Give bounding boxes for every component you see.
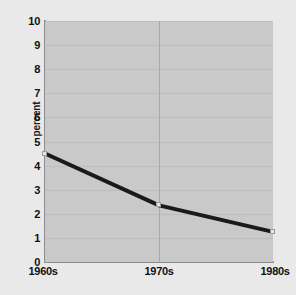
y-axis-tick-label: 5	[22, 137, 40, 148]
y-axis-tick-text: 6	[22, 112, 40, 123]
y-axis-tick-label: 3	[22, 185, 40, 196]
y-axis-tick-text: 9	[22, 40, 40, 51]
data-point-marker	[42, 151, 47, 156]
y-axis-tick-label: 10	[22, 16, 40, 27]
plot-area	[45, 21, 273, 262]
y-axis-tick-label: 2	[22, 209, 40, 220]
y-axis-tick-label: 8	[22, 64, 40, 75]
y-axis-tick-label: 4	[22, 161, 40, 172]
y-axis-tick-text: 1	[22, 233, 40, 244]
y-axis-tick-text: 5	[22, 137, 40, 148]
y-axis-tick-text: 8	[22, 64, 40, 75]
y-axis-tick-text: 10	[22, 16, 40, 27]
x-axis-tick-label: 1980s	[261, 265, 290, 277]
y-axis-tick-text: 4	[22, 161, 40, 172]
y-axis-tick-label: 7	[22, 88, 40, 99]
data-series-line	[45, 21, 273, 262]
data-point-marker	[270, 229, 275, 234]
y-axis-tick-label: 6	[22, 112, 40, 123]
data-point-marker	[156, 202, 161, 207]
y-axis-tick-label: 9	[22, 40, 40, 51]
line-chart: percent 109876543210 1960s1970s1980s	[0, 0, 296, 295]
y-axis-tick-text: 2	[22, 209, 40, 220]
x-axis-tick-label: 1970s	[145, 265, 174, 277]
y-axis-tick-text: 7	[22, 88, 40, 99]
y-axis-tick-labels: 109876543210	[22, 0, 40, 295]
y-axis-tick-text: 3	[22, 185, 40, 196]
y-axis-tick-label: 1	[22, 233, 40, 244]
x-axis-tick-label: 1960s	[29, 265, 58, 277]
